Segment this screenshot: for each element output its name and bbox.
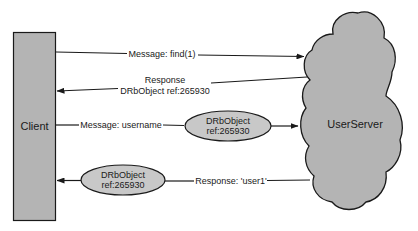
svg-text:DRbObject: DRbObject xyxy=(206,116,251,126)
response-user1-arrow: Response: 'user1' DRbObject ref:265930 xyxy=(57,165,310,195)
client-label: Client xyxy=(20,120,48,132)
message-find-arrow: Message: find(1) xyxy=(56,49,304,59)
drbobject-ellipse-request: DRbObject ref:265930 xyxy=(185,111,271,141)
response-label: Response xyxy=(145,75,186,85)
message-username-arrow: Message: username DRbObject ref:265930 xyxy=(56,111,298,141)
client-node: Client xyxy=(14,33,56,221)
userserver-cloud: UserServer xyxy=(301,12,403,210)
message-username-label: Message: username xyxy=(80,120,162,130)
drbobject-ellipse-response: DRbObject ref:265930 xyxy=(81,165,165,195)
response-user1-label: Response: 'user1' xyxy=(195,176,267,186)
svg-text:ref:265930: ref:265930 xyxy=(206,126,249,136)
drb-diagram: Client UserServer Message: find(1) Respo… xyxy=(0,0,418,231)
svg-text:ref:265930: ref:265930 xyxy=(101,180,144,190)
userserver-label: UserServer xyxy=(327,118,383,130)
message-find-label: Message: find(1) xyxy=(128,49,195,59)
svg-text:DRbObject: DRbObject xyxy=(101,170,146,180)
response-ref-label: DRbObject ref:265930 xyxy=(120,86,210,96)
response-drbobject-arrow: Response DRbObject ref:265930 xyxy=(57,75,307,96)
